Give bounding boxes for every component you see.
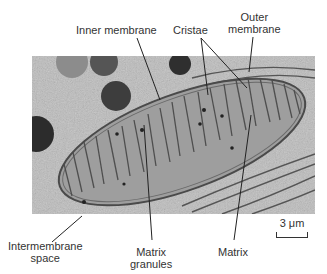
- label-outer-membrane: Outer membrane: [228, 11, 281, 35]
- scale-bar-line: [276, 232, 308, 238]
- mitochondrion-image: [32, 56, 315, 214]
- label-matrix: Matrix: [218, 246, 248, 258]
- label-cristae: Cristae: [173, 24, 208, 36]
- label-intermembrane-space: Intermembrane space: [8, 240, 83, 264]
- label-matrix-granules: Matrix granules: [130, 246, 172, 270]
- scale-bar-label: 3 μm: [276, 217, 308, 229]
- scale-bar: 3 μm: [276, 220, 308, 234]
- label-inner-membrane: Inner membrane: [76, 24, 157, 36]
- micrograph: [32, 56, 315, 214]
